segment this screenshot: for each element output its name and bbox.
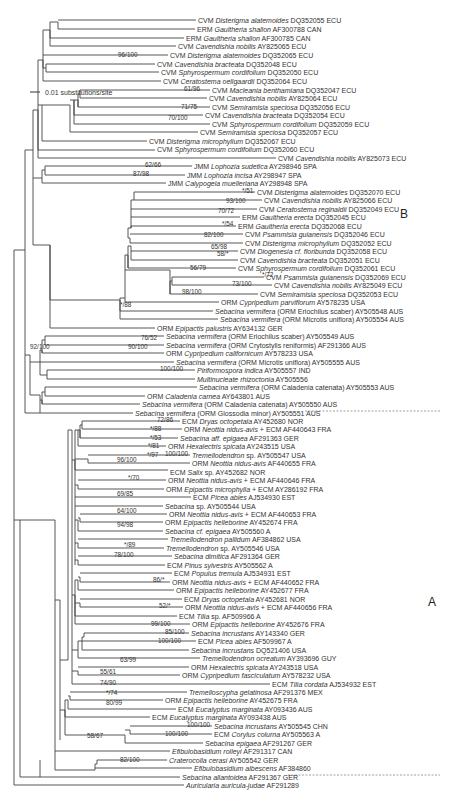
support-value: */97 (147, 451, 159, 458)
support-value: */81 (148, 442, 160, 449)
taxon-label: Tremellodendron ocreatum AY393696 GUY (202, 655, 337, 662)
support-value: 96/100 (118, 51, 138, 58)
taxon-label: Sebacina incrustans AY143340 GER (191, 630, 305, 637)
taxon-label: Sebacina vermifera (ORM Eriochilus scabe… (166, 333, 355, 341)
support-value: 69/85 (117, 490, 133, 497)
support-value: 64/100 (117, 507, 137, 514)
support-value: 72/86 (157, 416, 173, 423)
taxon-label: Sebacina vermifera (ORM Crytostylis reni… (166, 342, 366, 350)
support-value: 73/100 (232, 280, 252, 287)
support-value: 94/98 (117, 521, 133, 528)
support-value: 90/100 (128, 343, 148, 350)
taxon-label: ORM Epipactis helleborine AY452675 FRA (165, 697, 298, 705)
taxon-label: JMM Lophozia sudetica AY298946 SPA (194, 163, 317, 171)
taxon-label: Sebacina vermifera (ORM Caladenia catena… (142, 401, 338, 409)
taxon-label: ERM Gaultheria erecta DQ352045 ECU (242, 214, 366, 222)
taxon-label: ORM Neottia nidus-avis + ECM AF440646 FR… (168, 477, 316, 484)
support-value: */72 (262, 271, 274, 278)
support-value: 70/100 (168, 114, 188, 121)
taxon-label: Tremelloscypha gelatinosa AF291376 MEX (189, 689, 323, 697)
taxon-label: ERM Gaultheria shallon AF300788 CAN (197, 26, 322, 33)
support-value: 63/99 (120, 656, 136, 663)
taxon-label: ORM Epipactis helleborine AY452674 FRA (165, 519, 298, 527)
taxon-label: CVM Disterigma alatemoides DQ352065 ECU (170, 52, 313, 60)
support-value: 74/90 (100, 679, 116, 686)
taxon-label: Sebacina incrustans DQ521406 USA (191, 647, 307, 655)
support-value: 82/100 (204, 231, 224, 238)
support-value: 87/98 (133, 170, 149, 177)
support-value: 100/100 (187, 721, 211, 728)
taxon-label: Tremellodendron pallidum AF384862 USA (170, 536, 301, 544)
taxon-label: CVM Cavendishia nobilis AY825066 ECU (264, 197, 392, 204)
support-value: */70 (128, 474, 140, 481)
taxon-label: JMM Lophozia incisa AY298947 SPA (187, 172, 302, 180)
support-value: */54 (222, 220, 234, 227)
support-value: 92/100 (30, 343, 50, 350)
taxon-label: ECM Salix sp. AY452682 NOR (170, 469, 265, 477)
taxon-label: Craterocolla cerasi AY505542 GER (169, 757, 278, 764)
taxon-label: Sebacina cf. epigaea AY505560 A (165, 528, 271, 536)
taxon-label: CVM Macleania benthamiana DQ352047 ECU (212, 87, 356, 95)
taxon-label: ECM Corylus colurna AY505563 A (214, 731, 320, 739)
clade-label-a: A (428, 595, 436, 609)
support-value: 70/72 (218, 207, 234, 214)
support-value: 52/* (159, 602, 171, 609)
taxon-label: ECM Populus tremula AJ534931 EST (174, 570, 291, 578)
taxon-label: ORM Epipactis palustris AY634132 GER (157, 325, 283, 333)
support-value: 55/61 (100, 668, 116, 675)
support-value: */53 (150, 434, 162, 441)
taxon-label: Efibulobasidium albescens AF384860 (194, 765, 311, 772)
taxon-label: CVM Cavendishia nobilis AY825073 ECU (278, 155, 406, 162)
taxon-label: ORM Neottia nidus-avis + ECM AF440656 FR… (185, 604, 333, 611)
taxon-label: ERM Gaultheria shallon AF300785 CAN (186, 35, 311, 42)
support-value: 100/100 (165, 730, 189, 737)
taxon-label: CVM Cavendishia bracteata DQ352048 ECU (157, 61, 297, 69)
taxon-label: ORM Cypripedium fasciculatum AY578232 US… (182, 672, 331, 680)
taxon-label: ORM Epipactis microphylla + ECM AY286192… (166, 486, 324, 494)
taxon-label: ECM Tilia sp. AF509966 A (179, 613, 261, 621)
taxon-label: ECM Dryas octopetala AY452681 NOR (184, 596, 305, 604)
taxon-label: ECM Picea abies AF509967 A (198, 638, 292, 645)
taxon-label: CVM Sphyrospermum cordifolium DQ352059 E… (212, 121, 369, 129)
taxon-label: ERM Gaultheria erecta DQ352068 ECU (238, 223, 362, 231)
support-value: 61/96 (184, 85, 200, 92)
taxon-label: Sebacina incrustans AY505545 CHN (214, 723, 328, 730)
support-value: 93/100 (226, 197, 246, 204)
taxon-label: CVM Sphyrospermum cordifolium DQ352060 E… (157, 146, 314, 154)
support-value: 80/99 (106, 699, 122, 706)
taxon-label: ORM Neottia nidus-avis + ECM AF440643 FR… (184, 426, 332, 433)
taxon-label: ORM Cypripedium californicum AY578233 US… (166, 350, 313, 358)
support-value: 98/100 (182, 288, 202, 295)
taxon-label: CVM Cavendishia bracteata DQ352051 ECU (240, 257, 380, 265)
taxon-label: CVM Sphyrospermum cordifolium DQ352050 E… (161, 69, 318, 77)
taxon-label: Sebacina aff. epigaea AF291363 GER (180, 435, 299, 443)
taxon-label: CVM Disterigma microphyllum DQ352052 ECU (245, 240, 392, 248)
taxon-label: Tremellodendron sp. AY505546 USA (166, 545, 280, 553)
taxon-label: Piriformospora indica AY505557 IND (197, 367, 311, 375)
support-value: 86/* (153, 576, 165, 583)
taxon-label: ORM Epipactis helleborine AY452676 FRA (192, 621, 325, 629)
support-value: */88 (150, 425, 162, 432)
taxon-label: ECM Eucalyptus marginata AY093436 AUS (178, 706, 313, 714)
taxon-label: CVM Semiramisia speciosa DQ352057 ECU (200, 129, 338, 137)
support-value: 85/100 (165, 628, 185, 635)
support-value: 71/75 (181, 103, 197, 110)
taxon-label: CVM Cavendishia bracteata DQ352054 ECU (205, 112, 345, 120)
taxon-label: CVM Psammisia guianensis DQ352069 ECU (266, 274, 406, 282)
taxon-label: CVM Semiramisia speciosa DQ352056 ECU (212, 104, 350, 112)
taxon-label: JMM Calypogeia muelleriana AY298948 SPA (168, 180, 308, 188)
taxon-label: CVM Cavendishia nobilis AY825049 ECU (274, 282, 402, 289)
taxon-label: Multinucleate rhizoctonia AY505556 (197, 376, 308, 383)
clade-label-b: B (400, 207, 408, 221)
taxon-label: CVM Semiramisia speciosa DQ352053 ECU (260, 291, 398, 299)
taxon-label: ECM Tilia cordata AJ534932 EST (272, 681, 377, 688)
taxon-label: Sebacina vermifera (ORM Caladenia catena… (199, 384, 395, 392)
taxon-label: ECM Dryas octopetala AY452680 NOR (182, 418, 303, 426)
taxon-label: Tremellodendron sp. AY505547 USA (192, 452, 306, 460)
taxon-label: ECM Picea abies AJ534930 EST (193, 494, 296, 501)
taxon-label: ECM Eucalyptus marginata AY093438 AUS (152, 714, 287, 722)
taxon-label: ORM Neottia nidus-avis + ECM AF440652 FR… (172, 579, 320, 586)
support-value: */88 (120, 301, 132, 308)
taxon-label: Efibulobasidium rolleyi AF291317 CAN (172, 748, 292, 756)
taxon-label: Sebacina vermifera (ORM Microtis uniflor… (176, 359, 360, 367)
